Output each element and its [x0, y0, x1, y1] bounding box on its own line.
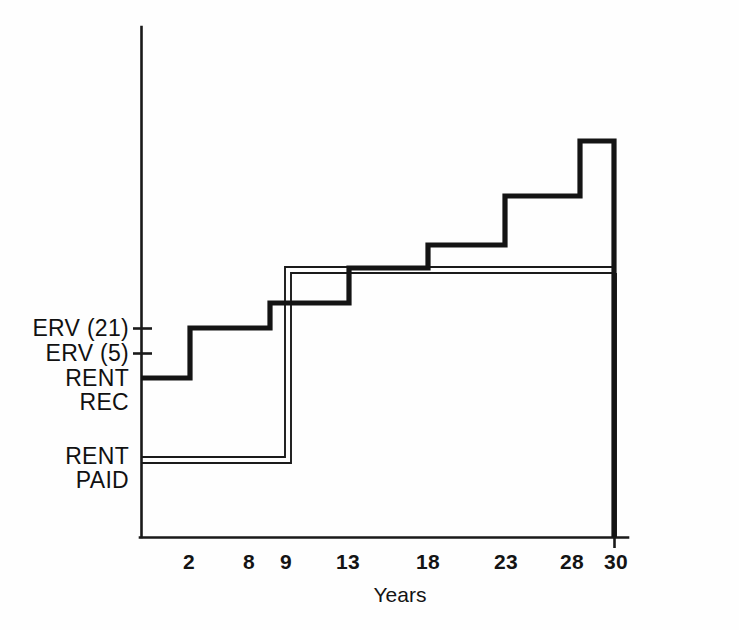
x-tick-label-30: 30	[604, 550, 628, 573]
x-tick-label-13: 13	[336, 550, 360, 573]
x-tick-label-9: 9	[280, 550, 292, 573]
label-erv21: ERV (21)	[32, 315, 129, 341]
label-rent-paid-line1: RENT	[65, 443, 129, 469]
label-erv5: ERV (5)	[46, 340, 129, 366]
x-tick-label-18: 18	[416, 550, 440, 573]
step-chart-figure: ERV (21) ERV (5) RENT REC RENT PAID 2 8 …	[0, 0, 739, 630]
label-rent-paid-line2: PAID	[76, 467, 129, 493]
label-rent-rec-line2: REC	[80, 389, 129, 415]
x-tick-label-28: 28	[560, 550, 584, 573]
x-tick-label-8: 8	[243, 550, 255, 573]
x-axis-title: Years	[374, 583, 427, 606]
x-tick-label-2: 2	[183, 550, 195, 573]
chart-container: ERV (21) ERV (5) RENT REC RENT PAID 2 8 …	[0, 0, 739, 630]
label-rent-rec-line1: RENT	[65, 365, 129, 391]
x-tick-label-23: 23	[494, 550, 518, 573]
